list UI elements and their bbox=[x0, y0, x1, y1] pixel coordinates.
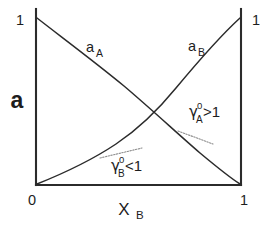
gamma-B-superscript: 0 bbox=[119, 154, 124, 165]
gamma-A-superscript: 0 bbox=[197, 100, 202, 111]
gamma-A-subscript: A bbox=[196, 114, 203, 125]
annotation-gamma-A: γ 0 A >1 bbox=[189, 100, 220, 125]
curve-label-a-A: a A bbox=[86, 39, 103, 59]
curve-label-a-B: a B bbox=[188, 38, 205, 58]
activity-diagram-figure: 1 1 0 1 a X B a A a B γ 0 A >1 γ 0 B bbox=[0, 0, 273, 226]
y-axis-label: a bbox=[11, 87, 24, 113]
x-axis-label-main: X bbox=[118, 200, 129, 219]
y-tick-top-right-label: 1 bbox=[252, 12, 260, 28]
x-tick-left-label: 0 bbox=[28, 192, 36, 208]
y-tick-top-label: 1 bbox=[16, 12, 24, 28]
x-axis-label: X B bbox=[118, 200, 144, 221]
curve-label-a-B-sub: B bbox=[198, 46, 205, 58]
curve-label-a-A-sub: A bbox=[96, 47, 103, 59]
gamma-B-relation: <1 bbox=[125, 157, 142, 174]
curve-label-a-A-main: a bbox=[86, 39, 95, 55]
x-axis-label-sub: B bbox=[136, 209, 144, 221]
gamma-B-subscript: B bbox=[118, 168, 125, 179]
annotation-gamma-B: γ 0 B <1 bbox=[111, 154, 142, 179]
curve-label-a-B-main: a bbox=[188, 38, 197, 54]
chart-svg: 1 1 0 1 a X B a A a B γ 0 A >1 γ 0 B bbox=[0, 0, 273, 226]
gamma-A-relation: >1 bbox=[203, 103, 220, 120]
x-tick-right-label: 1 bbox=[240, 192, 248, 208]
